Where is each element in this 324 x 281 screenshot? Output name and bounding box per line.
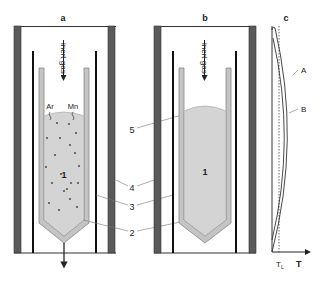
curve-a-leader	[293, 70, 298, 75]
x-axis-label: T	[296, 259, 302, 269]
callouts	[83, 112, 192, 231]
panel-c: c A B TL T	[272, 13, 308, 270]
panel-c-title: c	[283, 13, 288, 23]
furnace-wall-left-b	[154, 26, 161, 253]
curve-a-label: A	[301, 66, 307, 75]
panel-b-title: b	[202, 13, 208, 23]
species-ar-label: Ar	[46, 102, 54, 111]
panel-b: b 1 inert gas	[154, 13, 256, 253]
panel-a-title: a	[60, 13, 66, 23]
curve-b-leader	[289, 109, 298, 113]
diagram-canvas: a 1 inert gas Ar Mn	[0, 0, 324, 281]
callout-5: 5	[129, 125, 134, 135]
callout-4: 4	[129, 183, 134, 193]
curve-a	[272, 27, 287, 252]
callout-2: 2	[129, 228, 134, 238]
furnace-wall-left-a	[14, 26, 21, 253]
curve-b-label: B	[301, 105, 306, 114]
melt-label-a: 1	[61, 170, 66, 180]
melt-label-b: 1	[202, 167, 207, 177]
furnace-wall-right-a	[108, 26, 115, 253]
panel-a: a 1 inert gas Ar Mn	[14, 13, 116, 265]
tl-tick-label: TL	[276, 260, 284, 270]
furnace-wall-right-b	[249, 26, 256, 253]
callout-3: 3	[129, 202, 134, 212]
species-mn-label: Mn	[68, 102, 78, 111]
